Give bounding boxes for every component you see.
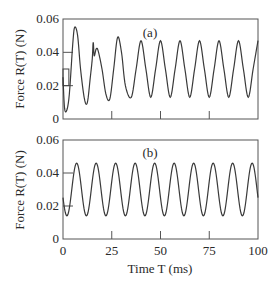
panel-a: 00.020.040.06 (a) Force R(T) (N) [12, 11, 258, 126]
x-tick-label: 0 [60, 243, 67, 258]
panel-b-label: (b) [142, 145, 157, 160]
panel-a-frame [63, 19, 258, 119]
y-tick-label: 0.06 [36, 11, 59, 26]
y-tick-label: 0.06 [36, 132, 59, 147]
x-tick-label: 100 [248, 243, 268, 258]
x-tick-label: 50 [154, 243, 167, 258]
panel-a-step-box [63, 69, 69, 86]
panel-b-y-axis-title: Force R(T) (N) [12, 150, 27, 229]
panel-a-series-line [63, 27, 258, 112]
y-tick-label: 0.04 [36, 165, 59, 180]
panel-a-x-ticks [112, 111, 210, 119]
x-axis-title: Time T (ms) [128, 261, 193, 276]
panel-b-series-line [63, 163, 258, 216]
panel-a-label: (a) [143, 25, 157, 40]
y-tick-label: 0.02 [36, 78, 59, 93]
y-tick-label: 0 [53, 231, 60, 246]
panel-b-y-ticks: 00.020.040.06 [36, 132, 73, 246]
panel-b-frame [63, 140, 258, 239]
y-tick-label: 0 [53, 111, 60, 126]
panel-b: 00.020.040.06 0255075100 (b) Force R(T) … [12, 132, 268, 276]
y-tick-label: 0.02 [36, 198, 59, 213]
x-tick-label: 75 [203, 243, 216, 258]
x-tick-label: 25 [105, 243, 118, 258]
y-tick-label: 0.04 [36, 44, 59, 59]
panel-a-y-axis-title: Force R(T) (N) [12, 29, 27, 108]
panel-b-x-ticks: 0255075100 [60, 231, 268, 258]
chart-figure: 00.020.040.06 (a) Force R(T) (N) 00.020.… [0, 0, 275, 282]
